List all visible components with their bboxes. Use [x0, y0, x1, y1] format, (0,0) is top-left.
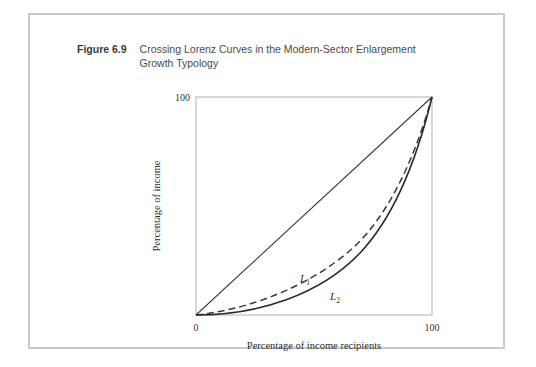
- figure-number-label: Figure 6.9: [77, 42, 140, 56]
- curve-label-l1-subscript: 1: [306, 278, 310, 287]
- y-axis-title: Percentage of income: [151, 160, 162, 251]
- lorenz-chart-svg: 100 0 100 Percentage of income recipient…: [130, 87, 475, 357]
- caption-row: Figure 6.9 Crossing Lorenz Curves in the…: [77, 42, 477, 70]
- figure-caption: Figure 6.9 Crossing Lorenz Curves in the…: [77, 42, 477, 70]
- figure-page: Figure 6.9 Crossing Lorenz Curves in the…: [0, 0, 536, 367]
- equality-line: [196, 97, 432, 315]
- figure-caption-text: Crossing Lorenz Curves in the Modern-Sec…: [140, 42, 450, 70]
- curve-label-l2-subscript: 2: [336, 296, 340, 305]
- caption-line-2: Growth Typology: [140, 57, 219, 69]
- curve-label-l2: L2: [329, 290, 340, 305]
- x-axis-title: Percentage of income recipients: [247, 340, 381, 351]
- curve-label-l1: L1: [299, 272, 310, 287]
- figure-frame: Figure 6.9 Crossing Lorenz Curves in the…: [28, 13, 505, 349]
- x-axis-tick-100: 100: [425, 322, 440, 333]
- curve-label-l2-letter: L: [329, 290, 336, 302]
- x-axis-tick-0: 0: [194, 322, 199, 333]
- y-axis-tick-100: 100: [175, 92, 190, 103]
- curve-label-l1-letter: L: [299, 272, 306, 284]
- caption-line-1: Crossing Lorenz Curves in the Modern-Sec…: [140, 43, 416, 55]
- lorenz-chart: 100 0 100 Percentage of income recipient…: [130, 87, 475, 357]
